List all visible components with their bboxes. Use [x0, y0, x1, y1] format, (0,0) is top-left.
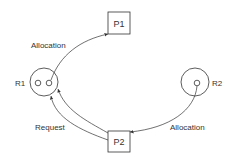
process-p2: P2: [108, 131, 130, 152]
p2-label: P2: [113, 137, 124, 147]
p1-label: P1: [113, 19, 124, 29]
r2-label: R2: [212, 79, 223, 88]
r1-instance-2: [46, 80, 52, 86]
resource-r1: R1: [15, 68, 58, 96]
edge-p2-r1-request-b: [51, 96, 108, 140]
r2-instance-1: [194, 80, 200, 86]
edge-label-request: Request: [35, 123, 66, 132]
edge-label-allocation-top: Allocation: [31, 41, 66, 50]
process-p1: P1: [108, 12, 130, 34]
edge-p2-r1-request-a: [58, 89, 108, 133]
r1-label: R1: [15, 79, 26, 88]
edge-label-allocation-right: Allocation: [170, 123, 205, 132]
resource-allocation-graph: P1 P2 R1 R2 Allocation Request Allocatio…: [0, 0, 243, 162]
resource-r2: R2: [181, 68, 223, 96]
r1-instance-1: [35, 80, 41, 86]
